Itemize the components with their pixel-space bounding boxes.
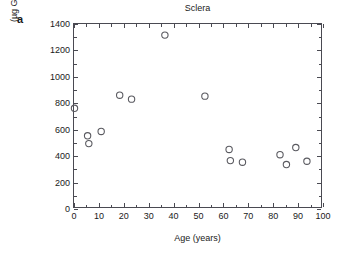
y-tick-major-right [317,50,321,51]
x-tick-label: 50 [193,212,203,221]
x-tick-major [223,203,224,207]
data-point-marker [227,157,233,163]
data-point-marker [226,146,232,152]
x-tick-major-top [273,24,274,28]
plot-area: 0200400600800100012001400010203040506070… [73,23,322,208]
y-tick-label: 800 [55,99,70,108]
y-tick-minor [74,90,77,91]
data-point-marker [98,128,104,134]
y-tick-major-right [317,156,321,157]
x-tick-major [174,203,175,207]
y-tick-major [74,50,78,51]
y-tick-major-right [317,209,321,210]
x-tick-minor-top [236,24,237,27]
x-tick-label: 0 [71,212,76,221]
y-tick-minor [74,169,77,170]
data-point-marker [71,105,77,111]
y-tick-minor-right [319,64,322,65]
y-tick-minor-right [319,196,322,197]
x-tick-label: 100 [315,212,330,221]
x-tick-label: 70 [243,212,253,221]
x-tick-major-top [298,24,299,28]
x-tick-major-top [248,24,249,28]
x-tick-label: 80 [268,212,278,221]
x-tick-major [323,203,324,207]
x-tick-label: 60 [218,212,228,221]
x-tick-major-top [223,24,224,28]
x-tick-major [273,203,274,207]
x-tick-label: 90 [293,212,303,221]
x-tick-major [124,203,125,207]
y-tick-major-right [317,183,321,184]
y-tick-minor [74,117,77,118]
x-tick-minor [86,205,87,208]
x-tick-minor-top [161,24,162,27]
y-tick-major-right [317,24,321,25]
y-tick-label: 0 [65,205,70,214]
x-tick-minor [111,205,112,208]
x-tick-minor-top [86,24,87,27]
x-tick-minor-top [186,24,187,27]
y-tick-label: 1400 [50,20,70,29]
y-tick-label: 600 [55,125,70,134]
y-axis-title-line1: Decorin [0,0,9,50]
data-point-marker [128,96,134,102]
data-point-marker [283,161,289,167]
data-point-marker [84,133,90,139]
y-tick-major-right [317,130,321,131]
y-tick-label: 200 [55,178,70,187]
x-tick-minor-top [211,24,212,27]
x-tick-major [74,203,75,207]
x-tick-minor-top [311,24,312,27]
data-point-marker [304,158,310,164]
y-tick-major-right [317,103,321,104]
x-tick-minor [186,205,187,208]
x-tick-minor [311,205,312,208]
x-tick-label: 30 [144,212,154,221]
x-tick-minor [261,205,262,208]
data-point-marker [202,93,208,99]
y-tick-major [74,209,78,210]
x-tick-label: 10 [94,212,104,221]
y-tick-minor-right [319,169,322,170]
x-tick-minor-top [261,24,262,27]
x-tick-minor [236,205,237,208]
data-point-marker [117,92,123,98]
x-tick-major-top [149,24,150,28]
data-point-marker [277,152,283,158]
y-tick-minor-right [319,117,322,118]
y-tick-major [74,77,78,78]
data-markers-layer [74,24,321,207]
y-tick-minor-right [319,37,322,38]
x-tick-label: 20 [119,212,129,221]
x-tick-major [99,203,100,207]
x-tick-major-top [74,24,75,28]
y-tick-major [74,103,78,104]
x-tick-major [149,203,150,207]
y-tick-major [74,156,78,157]
x-tick-major-top [199,24,200,28]
y-axis-title: Decorin (µg GAG/g wet wt) [0,0,20,50]
y-tick-major [74,183,78,184]
x-tick-minor-top [111,24,112,27]
chart-title: Sclera [73,4,322,13]
x-tick-major-top [99,24,100,28]
x-tick-minor-top [286,24,287,27]
y-tick-minor-right [319,143,322,144]
data-point-marker [239,159,245,165]
y-tick-label: 400 [55,152,70,161]
x-tick-minor [211,205,212,208]
x-tick-minor [161,205,162,208]
data-point-marker [162,32,168,38]
x-tick-major-top [323,24,324,28]
x-tick-major-top [174,24,175,28]
y-tick-minor [74,64,77,65]
y-tick-major [74,130,78,131]
x-tick-major [248,203,249,207]
scatter-figure: a Sclera 0200400600800100012001400010203… [0,0,342,265]
y-tick-major-right [317,77,321,78]
y-tick-label: 1000 [50,72,70,81]
y-axis-title-line2: (µg GAG/g wet wt) [9,0,20,50]
x-tick-minor [286,205,287,208]
x-tick-minor-top [136,24,137,27]
